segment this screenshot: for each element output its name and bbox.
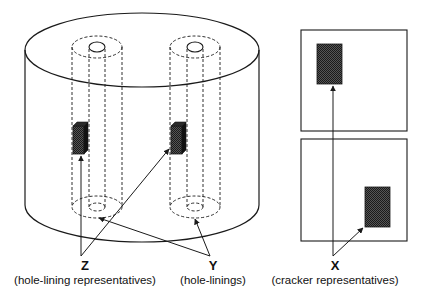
arrow-y-to-lining1 — [99, 218, 210, 256]
label-z-letter: Z — [14, 259, 156, 273]
label-z-desc: (hole-lining representatives) — [14, 273, 156, 287]
cylinder — [25, 13, 259, 242]
cracker-representative-top — [317, 44, 342, 84]
hole-lining-representative-1 — [73, 122, 88, 154]
diagram-canvas: Z (hole-lining representatives) Y (hole-… — [0, 0, 427, 303]
label-x-desc: (cracker representatives) — [271, 273, 398, 287]
arrow-x-to-rep-bottom — [333, 228, 363, 256]
label-x-letter: X — [271, 259, 398, 273]
cracker-plate-bottom — [301, 139, 407, 241]
cylinder-bottom-curve — [25, 205, 259, 242]
cracker-plate-top — [301, 30, 407, 131]
cracker-representative-bottom — [365, 187, 390, 227]
arrows — [81, 86, 363, 256]
label-z: Z (hole-lining representatives) — [14, 259, 156, 287]
arrow-z-to-rep2 — [81, 149, 169, 256]
label-x: X (cracker representatives) — [271, 259, 398, 287]
hole-lining-representative-2 — [171, 122, 186, 154]
label-y-desc: (hole-linings) — [180, 273, 246, 287]
label-y: Y (hole-linings) — [180, 259, 246, 287]
label-y-letter: Y — [180, 259, 246, 273]
cylinder-top-ellipse — [25, 13, 259, 87]
